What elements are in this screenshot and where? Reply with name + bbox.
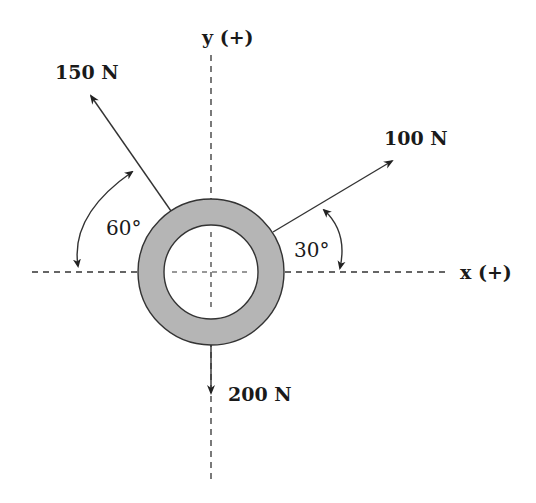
force-label-150n: 150 N — [55, 63, 119, 82]
force-arrow-100n — [273, 161, 392, 232]
angle-label-30: 30° — [294, 240, 329, 260]
force-label-200n: 200 N — [228, 385, 292, 404]
force-label-100n: 100 N — [384, 129, 448, 148]
force-arrow-150n — [91, 96, 171, 211]
x-axis-label: x (+) — [460, 263, 512, 282]
y-axis-label: y (+) — [202, 28, 254, 47]
angle-label-60: 60° — [106, 218, 141, 238]
